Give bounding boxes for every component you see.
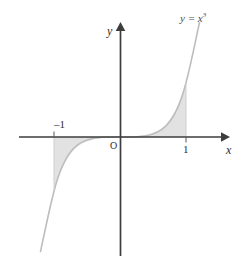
x-tick-label-one: 1	[183, 144, 189, 155]
cubic-function-figure: y x –1 1 O y = x3	[0, 0, 245, 269]
x-axis-arrowhead	[221, 132, 230, 142]
plot-canvas	[0, 0, 245, 269]
curve-equation-base: y = x	[180, 12, 203, 24]
y-axis-arrowhead	[116, 22, 126, 31]
x-axis-label: x	[226, 144, 231, 156]
curve-equation-exponent: 3	[203, 11, 207, 19]
curve-equation-label: y = x3	[180, 13, 206, 24]
y-axis-label: y	[107, 25, 112, 37]
origin-label: O	[110, 141, 117, 151]
x-tick-label-minus-one: –1	[54, 119, 65, 130]
